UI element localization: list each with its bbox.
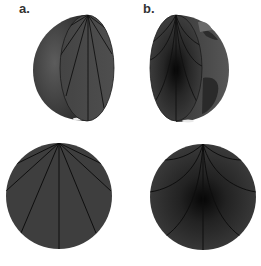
panel-a-cross-section (6, 143, 112, 249)
panel-a-globe (33, 15, 114, 121)
highlight (182, 120, 194, 123)
diagram-canvas (0, 0, 261, 266)
cut-face (60, 15, 114, 121)
panel-b-globe (150, 15, 229, 123)
panel-b-cross-section (150, 144, 256, 250)
